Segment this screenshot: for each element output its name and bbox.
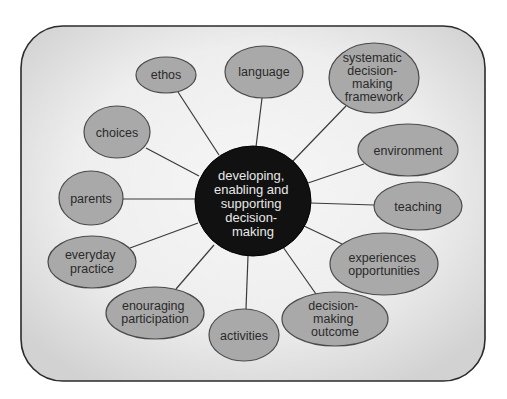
node-label: teaching <box>394 200 441 214</box>
node-teaching: teaching <box>374 182 462 230</box>
node-language: language <box>225 46 303 98</box>
node-label: everyday <box>65 248 116 262</box>
node-label: enouraging <box>122 299 185 313</box>
node-activities: activities <box>209 309 279 361</box>
center-label: enabling and <box>214 182 288 197</box>
node-choices: choices <box>84 106 150 158</box>
node-experiences-opportunities: experiences opportunities <box>330 233 438 295</box>
center-label: developing, <box>218 168 285 183</box>
node-label: practice <box>70 262 114 276</box>
node-parents: parents <box>59 171 123 225</box>
svg-text:decision- making o: decision- making outcome <box>308 299 362 339</box>
center-label: supporting <box>221 196 282 211</box>
node-label: opportunities <box>348 264 420 278</box>
node-label: parents <box>70 192 112 206</box>
node-label: decision- <box>308 299 358 313</box>
svg-text:ethos: ethos <box>151 68 182 82</box>
node-systematic-decision-making-framework: systematic decision- making framework <box>329 43 419 113</box>
node-everyday-practice: everyday practice <box>48 236 136 288</box>
svg-text:choices: choices <box>96 126 138 140</box>
svg-text:everyday practice: everyday practice <box>65 248 119 276</box>
node-decision-making-outcome: decision- making outcome <box>282 292 388 346</box>
center-hub: developing, enabling and supporting deci… <box>195 146 311 256</box>
node-label: outcome <box>311 325 359 339</box>
center-label: making <box>232 224 274 239</box>
node-label: making <box>313 312 353 326</box>
svg-text:teaching: teaching <box>394 200 441 214</box>
node-label: framework <box>345 90 404 104</box>
node-label: decision- <box>347 64 397 78</box>
node-label: environment <box>374 144 443 158</box>
node-environment: environment <box>358 124 458 176</box>
node-label: ethos <box>151 68 182 82</box>
node-label: participation <box>121 312 188 326</box>
center-label: decision- <box>225 210 277 225</box>
node-label: systematic <box>343 51 402 65</box>
node-label: choices <box>96 126 138 140</box>
mind-map-diagram: ethos language systematic decision- maki… <box>0 0 507 399</box>
svg-text:systematic decision-: systematic decision- making framework <box>343 51 406 104</box>
node-ethos: ethos <box>136 57 196 93</box>
svg-text:experiences opportunitie: experiences opportunities <box>348 251 420 278</box>
node-label: language <box>238 65 289 79</box>
node-enouraging-participation: enouraging participation <box>106 287 204 339</box>
svg-text:language: language <box>238 65 289 79</box>
svg-text:parents: parents <box>70 192 112 206</box>
node-label: experiences <box>349 251 416 265</box>
svg-text:environment: environment <box>374 144 443 158</box>
svg-text:activities: activities <box>220 329 268 343</box>
node-label: making <box>352 77 392 91</box>
node-label: activities <box>220 329 268 343</box>
svg-text:enouraging participation: enouraging participation <box>121 299 188 326</box>
